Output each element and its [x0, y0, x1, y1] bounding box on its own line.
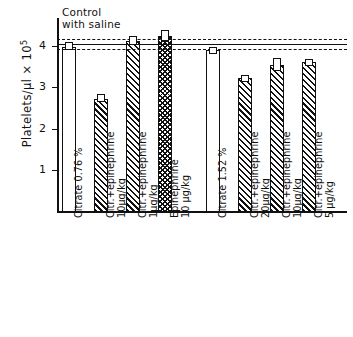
control-annotation-line1: Control [62, 6, 121, 18]
x-axis-label-4: Epinephrine 10 µg/kg [170, 102, 191, 218]
figure: Platelets/µl × 105 1234 Control with sal… [0, 0, 353, 337]
plot-area [57, 18, 347, 212]
reference-line-dashed-0 [57, 39, 347, 40]
error-bar-4 [161, 30, 169, 41]
y-tick-label-4: 4 [32, 40, 46, 51]
error-bar-3 [129, 36, 137, 44]
y-tick-label-2: 2 [32, 123, 46, 134]
error-bar-8 [305, 59, 313, 66]
x-axis-label-5: Citrate 1.52 % [218, 102, 229, 218]
x-axis-label-1: Citrate 0.76 % [74, 102, 85, 218]
error-bar-5 [209, 47, 217, 54]
reference-line-solid-1 [57, 44, 347, 45]
error-bar-2 [97, 94, 105, 101]
x-axis-label-3: Citr.+epinephrine 1µg/kg [138, 102, 159, 218]
error-bar-7 [273, 58, 281, 71]
y-tick-label-3: 3 [32, 81, 46, 92]
error-bar-6 [241, 75, 249, 82]
y-axis-exponent: 5 [20, 40, 29, 46]
y-tick-label-1: 1 [32, 164, 46, 175]
x-axis-label-2: Citr.+epinephrine 10µg/kg [106, 102, 127, 218]
x-axis-label-8: Citr.+epinephrine 5 µg/kg [314, 102, 335, 218]
x-axis-label-7: Citr.+epinephrine 10µg/kg [282, 102, 303, 218]
x-axis-label-6: Citr.+epinephrine 20µg/kg [250, 102, 271, 218]
error-bar-1 [65, 42, 73, 50]
reference-line-dashed-2 [57, 49, 347, 50]
